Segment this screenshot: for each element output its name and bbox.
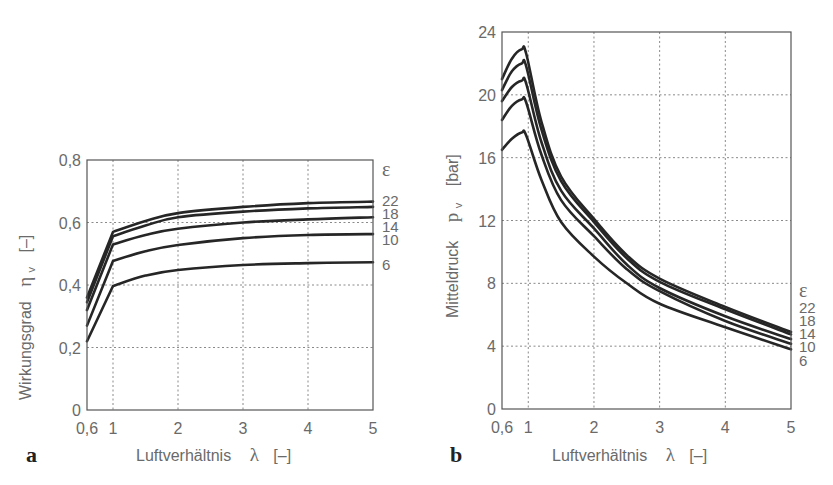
x-axis-label: Luftverhältnis λ [–] (552, 444, 707, 465)
y-tick-label: 0 (72, 402, 81, 419)
y-tick-label: 0 (487, 401, 496, 418)
y-tick-labels: 04812162024 (478, 24, 496, 418)
curves (502, 46, 791, 349)
y-tick-label: 20 (478, 87, 496, 104)
y-tick-label: 16 (478, 150, 496, 167)
y-axis-label: Mitteldruck p v [bar] (441, 154, 465, 318)
legend: ε221814106 (799, 279, 816, 369)
y-tick-label: 0,8 (59, 152, 81, 169)
curve-eps-6 (87, 262, 373, 341)
curve-eps-22 (87, 202, 373, 298)
panel-label: a (26, 442, 37, 467)
x-tick-label: 5 (369, 420, 378, 437)
panel-label: b (450, 442, 462, 467)
y-tick-label: 8 (487, 275, 496, 292)
grid-lines (87, 160, 373, 410)
x-tick-label: 5 (787, 419, 796, 436)
legend: ε221814106 (382, 158, 399, 273)
legend-item-eps-6: 6 (382, 256, 390, 273)
legend-title: ε (382, 158, 390, 180)
x-axis-label: Luftverhältnis λ [–] (136, 444, 291, 465)
curve-eps-14 (502, 78, 791, 339)
x-tick-label: 3 (655, 419, 664, 436)
y-tick-label: 24 (478, 24, 496, 41)
figure: 0,612345 00,20,40,60,8 ε221814106 a Luft… (0, 0, 833, 485)
legend-item-eps-6: 6 (799, 352, 807, 369)
x-tick-label: 4 (721, 419, 730, 436)
legend-item-eps-10: 10 (382, 231, 399, 248)
x-tick-labels: 0,612345 (491, 419, 796, 436)
y-tick-labels: 00,20,40,60,8 (59, 152, 81, 419)
x-tick-label: 3 (239, 420, 248, 437)
y-tick-label: 0,4 (59, 277, 81, 294)
chart-efficiency: 0,612345 00,20,40,60,8 ε221814106 a Luft… (14, 152, 399, 467)
y-tick-label: 12 (478, 213, 496, 230)
curve-eps-18 (502, 60, 791, 334)
y-axis-label: Wirkungsgrad η v [–] (14, 235, 38, 400)
y-tick-label: 4 (487, 338, 496, 355)
y-tick-label: 0,2 (59, 340, 81, 357)
x-tick-labels: 0,612345 (76, 420, 378, 437)
x-tick-label: 1 (524, 419, 533, 436)
legend-title: ε (799, 279, 807, 301)
x-tick-label: 2 (590, 419, 599, 436)
x-tick-label: 0,6 (76, 420, 98, 437)
chart-mean-pressure: 0,612345 04812162024 ε221814106 b Luftve… (441, 24, 816, 467)
x-tick-label: 1 (109, 420, 118, 437)
grid-lines (502, 32, 791, 409)
y-tick-label: 0,6 (59, 215, 81, 232)
x-tick-label: 0,6 (491, 419, 513, 436)
x-tick-label: 4 (304, 420, 313, 437)
x-tick-label: 2 (174, 420, 183, 437)
